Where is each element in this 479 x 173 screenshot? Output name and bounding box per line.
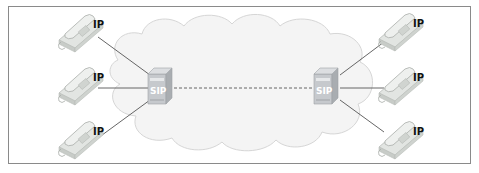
ip-label: IP xyxy=(93,19,104,30)
ip-label: IP xyxy=(413,126,424,137)
left-phone-2: IP xyxy=(58,68,104,106)
left-phone-3: IP xyxy=(58,122,104,160)
right-phone-2: IP xyxy=(378,68,424,106)
left-phone-1: IP xyxy=(58,15,104,53)
ip-label: IP xyxy=(413,18,424,29)
sip-label: SIP xyxy=(316,86,333,96)
right-phone-3: IP xyxy=(378,122,424,160)
sip-label: SIP xyxy=(150,86,167,96)
right-phone-1: IP xyxy=(378,14,424,52)
left-sip-server: SIP xyxy=(148,68,172,104)
network-diagram: IP IP IP IP IP IP SIP SIP xyxy=(0,0,479,173)
right-sip-server: SIP xyxy=(314,68,338,104)
ip-label: IP xyxy=(413,72,424,83)
ip-label: IP xyxy=(93,72,104,83)
ip-label: IP xyxy=(93,126,104,137)
